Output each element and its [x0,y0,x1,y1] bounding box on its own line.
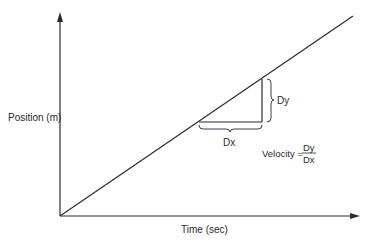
equation-numerator: Dy [303,142,315,153]
y-axis-arrow-icon [57,12,63,22]
slope-triangle [199,79,262,122]
position-time-diagram: Position (m) Time (sec) Dy Dx Velocity =… [0,0,365,243]
dx-label: Dx [223,137,235,148]
equation-lhs: Velocity = [262,148,303,159]
velocity-equation: Velocity = Dy Dx [262,142,316,165]
x-axis-arrow-icon [350,213,360,219]
equation-denominator: Dx [303,154,315,165]
dy-label: Dy [277,95,289,106]
x-axis [60,213,360,219]
y-axis-label: Position (m) [8,112,61,123]
position-line [60,16,353,216]
x-axis-label: Time (sec) [181,224,228,235]
dy-brace-icon [267,79,274,122]
dx-brace-icon [199,125,262,132]
